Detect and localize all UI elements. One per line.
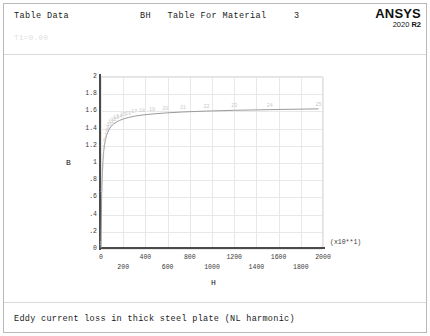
y-axis-tick-label: .6 — [89, 193, 97, 200]
x-axis-tick-label: 1200 — [226, 254, 242, 261]
curve-point-label: 21 — [180, 105, 186, 111]
x-axis-tick-label: 400 — [140, 254, 152, 261]
x-axis-multiplier-label: (x10**1) — [330, 239, 361, 246]
y-axis-tick-label: 1.8 — [85, 90, 97, 97]
y-axis-tick-label: 1.6 — [85, 107, 97, 114]
chart-region: 0.2.4.6.811.21.41.61.82 0200400600800100… — [0, 0, 430, 336]
ansys-plot-window: Table Data BH Table For Material 3 T1=0.… — [0, 0, 430, 336]
curve-point-label: 22 — [203, 104, 209, 110]
curve-point-label: 16 — [125, 111, 131, 117]
curve-point-label: 19 — [149, 107, 155, 113]
x-axis-tick-label: 2000 — [315, 254, 331, 261]
footer-divider — [4, 302, 426, 303]
x-axis-tick-label: 1600 — [271, 254, 287, 261]
y-axis-tick-label: 1 — [93, 159, 97, 166]
y-axis-tick-label: .8 — [89, 176, 97, 183]
x-axis-tick-label: 600 — [162, 264, 174, 271]
curve-point-label: 1 — [99, 241, 102, 247]
y-axis-tick-label: 2 — [93, 73, 97, 80]
y-axis-tick-label: 1.2 — [85, 141, 97, 148]
x-axis-tick-labels: 0200400600800100012001400160018002000 — [101, 250, 323, 276]
curve-point-label: 5 — [102, 145, 105, 151]
curve-point-label: 23 — [231, 103, 237, 109]
x-axis-tick-label: 0 — [99, 254, 103, 261]
y-axis-title: B — [66, 158, 71, 167]
y-axis-tick-label: .4 — [89, 210, 97, 217]
y-axis-tick-label: 1.4 — [85, 124, 97, 131]
y-axis-tick-label: 0 — [93, 245, 97, 252]
curve-point-label: 4 — [101, 153, 104, 159]
curve-point-label: 6 — [103, 138, 106, 144]
curve-point-label: 17 — [131, 109, 137, 115]
x-axis-tick-label: 800 — [184, 254, 196, 261]
x-axis-tick-label: 1400 — [249, 264, 265, 271]
curve-point-label: 3 — [101, 165, 104, 171]
gridline-vertical — [323, 77, 324, 248]
curve-point-label: 24 — [267, 103, 273, 109]
x-axis-tick-label: 1000 — [204, 264, 220, 271]
footer-caption: Eddy current loss in thick steel plate (… — [14, 314, 295, 324]
y-axis-tick-label: .2 — [89, 227, 97, 234]
curve-path — [101, 109, 319, 248]
x-axis-title: H — [211, 278, 216, 287]
curve-point-label: 20 — [162, 106, 168, 112]
x-axis-tick-label: 200 — [117, 264, 129, 271]
curve-point-label: 18 — [139, 108, 145, 114]
curve-point-label: 25 — [316, 102, 322, 108]
curve-point-label: 2 — [100, 188, 103, 194]
bh-curve — [101, 76, 323, 248]
y-axis-tick-labels: 0.2.4.6.811.21.41.61.82 — [72, 76, 97, 248]
x-axis-tick-label: 1800 — [293, 264, 309, 271]
